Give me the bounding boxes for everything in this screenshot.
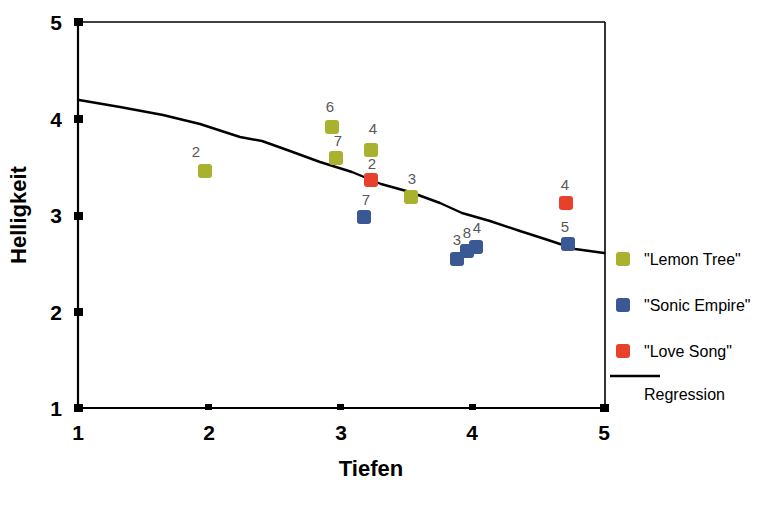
- series-love-song: 2 4: [364, 155, 573, 210]
- data-point[interactable]: [364, 173, 378, 187]
- legend-swatch-icon: [616, 344, 630, 358]
- x-tick-label: 2: [203, 421, 215, 444]
- tick-marks: [74, 18, 609, 412]
- y-tick-label: 2: [50, 301, 62, 324]
- tick-y-2: [74, 308, 83, 316]
- data-point[interactable]: [559, 196, 573, 210]
- legend-item-sonic-empire[interactable]: "Sonic Empire": [616, 297, 751, 314]
- legend-label: "Love Song": [644, 343, 732, 360]
- legend-item-lemon-tree[interactable]: "Lemon Tree": [616, 251, 741, 268]
- chart-legend: "Lemon Tree" "Sonic Empire" "Love Song" …: [610, 251, 751, 403]
- tick-y-4: [74, 115, 83, 123]
- tick-x-5: [600, 404, 609, 412]
- data-point[interactable]: [329, 151, 343, 165]
- data-point-label: 7: [362, 191, 370, 208]
- regression-line: [79, 100, 604, 253]
- data-point-label: 3: [408, 170, 416, 187]
- data-point[interactable]: [561, 237, 575, 251]
- y-tick-label: 1: [50, 397, 62, 420]
- x-axis-title: Tiefen: [339, 456, 403, 481]
- tick-y-1: [74, 404, 83, 412]
- legend-item-regression[interactable]: Regression: [610, 376, 725, 403]
- legend-swatch-icon: [616, 252, 630, 266]
- x-tick-label: 4: [466, 421, 478, 444]
- legend-item-love-song[interactable]: "Love Song": [616, 343, 732, 360]
- legend-label: "Sonic Empire": [644, 297, 751, 314]
- data-point-label: 6: [326, 98, 334, 115]
- y-tick-label: 3: [50, 204, 62, 227]
- x-tick-label: 1: [72, 421, 84, 444]
- tick-y-3: [74, 212, 83, 220]
- x-tick-label: 3: [335, 421, 347, 444]
- data-point-label: 8: [463, 224, 471, 241]
- chart-canvas: 1 2 3 4 5 5 4 3 2 1 Tiefen Helligkeit 2 …: [0, 0, 770, 505]
- tick-x-4: [469, 404, 476, 410]
- tick-x-3: [337, 404, 344, 410]
- tick-x-2: [205, 404, 212, 410]
- data-point-label: 2: [368, 155, 376, 172]
- series-lemon-tree: 2 6 7 4 3: [192, 98, 418, 204]
- x-tick-labels: 1 2 3 4 5: [72, 421, 610, 444]
- scatter-chart: 1 2 3 4 5 5 4 3 2 1 Tiefen Helligkeit 2 …: [0, 0, 770, 505]
- legend-label: Regression: [644, 386, 725, 403]
- data-point[interactable]: [469, 240, 483, 254]
- data-point-label: 2: [192, 143, 200, 160]
- data-point[interactable]: [404, 190, 418, 204]
- plot-frame: [78, 22, 605, 408]
- data-point[interactable]: [198, 164, 212, 178]
- data-point-label: 4: [369, 120, 377, 137]
- series-sonic-empire: 7 3 8 4 5: [357, 191, 575, 266]
- tick-y-5: [74, 18, 83, 26]
- data-point[interactable]: [357, 210, 371, 224]
- legend-swatch-icon: [616, 298, 630, 312]
- x-tick-label: 5: [598, 421, 610, 444]
- y-axis-title: Helligkeit: [6, 165, 31, 263]
- y-tick-label: 5: [50, 11, 62, 34]
- y-tick-label: 4: [50, 108, 62, 131]
- data-point-label: 3: [453, 231, 461, 248]
- y-tick-labels: 5 4 3 2 1: [50, 11, 62, 420]
- data-point-label: 4: [561, 176, 569, 193]
- data-point-label: 7: [334, 132, 342, 149]
- legend-label: "Lemon Tree": [644, 251, 741, 268]
- data-point-label: 4: [473, 219, 481, 236]
- data-point-label: 5: [561, 218, 569, 235]
